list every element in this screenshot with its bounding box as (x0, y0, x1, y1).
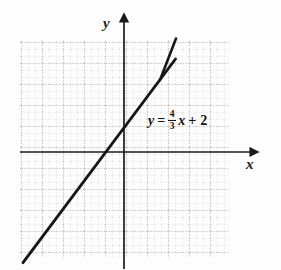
equation-slope-fraction: 4 3 (168, 110, 176, 132)
graph-figure: y x y = 4 3 x + 2 (0, 0, 281, 270)
fraction-numerator: 4 (169, 110, 176, 120)
equation-intercept: 2 (200, 114, 207, 128)
equation-equals-sign: = (157, 114, 165, 128)
equation-lhs: y (148, 114, 154, 128)
fraction-denominator: 3 (169, 122, 176, 132)
equation-plus-sign: + (188, 114, 196, 128)
equation-annotation: y = 4 3 x + 2 (147, 110, 209, 132)
y-axis-label: y (103, 16, 110, 31)
x-axis-label: x (246, 157, 254, 172)
coordinate-plane-canvas (0, 0, 281, 270)
equation-variable: x (178, 114, 185, 128)
